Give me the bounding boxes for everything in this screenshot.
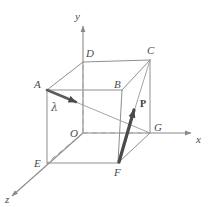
vertex-label-O: O: [70, 127, 78, 139]
vector-label-P: P: [140, 98, 146, 109]
figure-canvas: A B C D E F G O y x z λ P: [0, 0, 214, 207]
vertex-label-F: F: [113, 166, 121, 178]
vertex-label-E: E: [33, 157, 41, 169]
vertex-label-G: G: [154, 121, 162, 133]
vector-from-F-arrow: [119, 110, 134, 162]
vector-label-lambda: λ: [50, 101, 58, 114]
axis-group: [12, 26, 191, 196]
cube-vector-figure: A B C D E F G O y x z λ P: [0, 0, 214, 207]
vertex-label-D: D: [85, 47, 94, 59]
axis-labels: y x z: [4, 10, 201, 205]
vertex-label-A: A: [33, 78, 41, 90]
edge-D-A: [47, 62, 83, 90]
axis-label-z: z: [4, 193, 10, 205]
axis-label-x: x: [195, 133, 201, 145]
edge-C-D: [83, 60, 150, 62]
vertex-label-B: B: [114, 78, 121, 90]
axis-label-y: y: [74, 10, 80, 22]
vertex-label-C: C: [147, 44, 155, 56]
